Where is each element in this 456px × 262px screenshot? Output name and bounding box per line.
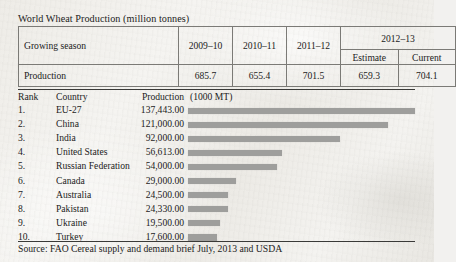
figure-caption: World Wheat Production (million tonnes) <box>18 13 189 24</box>
row-production: 137,443.00 <box>121 104 184 115</box>
row-rank: 1. <box>18 104 52 115</box>
table-row: 9.Ukraine19,500.00 <box>18 217 415 231</box>
source-note: Source: FAO Cereal supply and demand bri… <box>18 243 282 254</box>
header-season-2009-10: 2009–10 <box>179 27 233 65</box>
table-row: 4.United States56,613.00 <box>18 146 415 160</box>
row-country: Australia <box>56 189 91 200</box>
row-country: EU-27 <box>56 104 82 115</box>
row-bar <box>188 122 388 128</box>
cell-production-2012-13-current: 704.1 <box>398 65 456 87</box>
table-row: 3.India92,000.00 <box>18 132 415 146</box>
table-row: 6.Canada29,000.00 <box>18 175 415 189</box>
row-country: Canada <box>56 175 85 186</box>
wheat-production-summary-table: Growing season 2009–10 2010–11 2011–12 2… <box>18 26 456 87</box>
row-bar <box>188 136 340 142</box>
row-production: 19,500.00 <box>121 217 184 228</box>
row-bar-track <box>188 122 415 128</box>
ranking-header-row: Rank Country Production (1000 MT) <box>18 91 415 105</box>
table-row-production: Production 685.7 655.4 701.5 659.3 704.1 <box>19 65 456 87</box>
row-country: India <box>56 132 76 143</box>
row-rank: 9. <box>18 217 52 228</box>
cell-production-2010-11: 655.4 <box>233 65 287 87</box>
table-row: 2.China121,000.00 <box>18 118 415 132</box>
row-production: 56,613.00 <box>121 146 184 157</box>
row-rank: 3. <box>18 132 52 143</box>
table-row: 5.Russian Federation54,000.00 <box>18 160 415 174</box>
row-country: United States <box>56 146 107 157</box>
row-country: Russian Federation <box>56 160 130 171</box>
row-country: Ukraine <box>56 217 87 228</box>
cell-production-label: Production <box>19 65 179 87</box>
row-rank: 2. <box>18 118 52 129</box>
row-country: Pakistan <box>56 203 89 214</box>
row-rank: 7. <box>18 189 52 200</box>
header-season-2010-11: 2010–11 <box>233 27 287 65</box>
ranking-header-production: Production <box>121 91 184 102</box>
cell-production-2011-12: 701.5 <box>287 65 341 87</box>
ranking-header-rank: Rank <box>18 91 52 102</box>
row-bar-track <box>188 206 415 212</box>
row-bar <box>188 220 220 226</box>
row-bar <box>188 234 217 240</box>
cell-production-2009-10: 685.7 <box>179 65 233 87</box>
row-bar <box>188 206 228 212</box>
row-bar <box>188 164 277 170</box>
header-season-2011-12: 2011–12 <box>287 27 341 65</box>
row-bar-track <box>188 136 415 142</box>
row-bar-track <box>188 164 415 170</box>
header-growing-season: Growing season <box>19 27 179 65</box>
table-row: 8.Pakistan24,330.00 <box>18 203 415 217</box>
header-season-2012-13: 2012–13 <box>341 27 456 50</box>
table-row: 7.Australia24,500.00 <box>18 189 415 203</box>
row-bar <box>188 178 236 184</box>
row-bar-track <box>188 108 415 114</box>
ranking-header-country: Country <box>56 91 87 102</box>
table-header-row-1: Growing season 2009–10 2010–11 2011–12 2… <box>19 27 456 50</box>
row-bar-track <box>188 150 415 156</box>
row-rank: 4. <box>18 146 52 157</box>
row-bar-track <box>188 234 415 240</box>
row-rank: 8. <box>18 203 52 214</box>
cell-production-2012-13-estimate: 659.3 <box>341 65 399 87</box>
row-production: 121,000.00 <box>121 118 184 129</box>
header-estimate: Estimate <box>341 50 399 65</box>
row-production: 24,500.00 <box>121 189 184 200</box>
row-production: 54,000.00 <box>121 160 184 171</box>
row-rank: 6. <box>18 175 52 186</box>
row-bar <box>188 192 228 198</box>
row-country: China <box>56 118 79 129</box>
row-production: 24,330.00 <box>121 203 184 214</box>
ranking-header-unit: (1000 MT) <box>190 91 232 102</box>
row-production: 29,000.00 <box>121 175 184 186</box>
row-production: 92,000.00 <box>121 132 184 143</box>
row-bar <box>188 150 282 156</box>
row-bar <box>188 108 415 114</box>
row-rank: 5. <box>18 160 52 171</box>
row-bar-track <box>188 220 415 226</box>
header-current: Current <box>398 50 456 65</box>
table-row: 1.EU-27137,443.00 <box>18 104 415 118</box>
row-bar-track <box>188 192 415 198</box>
row-bar-track <box>188 178 415 184</box>
